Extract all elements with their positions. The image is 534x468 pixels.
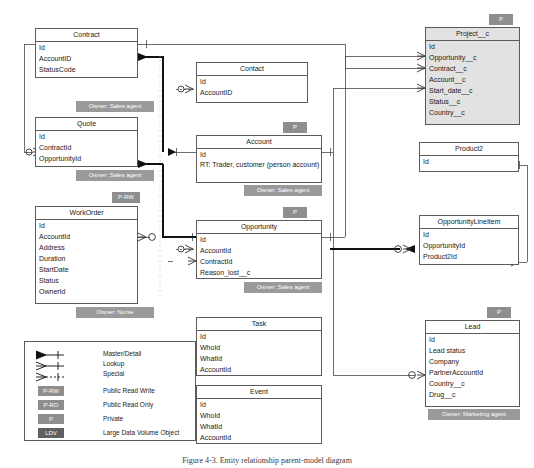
legend-badge-ldv: LDV (38, 428, 64, 438)
entity-title: Opportunity (197, 221, 321, 234)
entity-field: AccountId (197, 364, 321, 375)
entity-field: Status (36, 275, 137, 286)
legend-badge-p: P (38, 414, 64, 424)
entity-field: Status__c (426, 96, 519, 107)
owner-badge-quote: Owner: Sales agent (76, 170, 154, 181)
entity-title: Project__c (426, 28, 519, 41)
entity-field: Id (426, 334, 519, 345)
entity-field: Id (36, 42, 137, 53)
entity-field: Id (420, 156, 518, 167)
entity-field: PartnerAccountId (426, 367, 519, 378)
entity-contact[interactable]: Contact Id AccountID (196, 62, 308, 103)
entity-field: Opportunity__c (426, 52, 519, 63)
entity-fields: Id OpportunityId Product2Id (420, 229, 518, 262)
entity-title: Contract (36, 29, 137, 42)
entity-field: Id (197, 234, 321, 245)
entity-fields: Id Lead status Company PartnerAccountId … (426, 334, 519, 400)
entity-contract[interactable]: Contract Id AccountID StatusCode (35, 28, 138, 78)
entity-field: Address (36, 242, 137, 253)
sharing-badge-workorder: P-RW (112, 192, 140, 203)
entity-title: Contact (197, 63, 307, 76)
entity-field: ContractId (197, 256, 321, 267)
owner-badge-workorder: Owner: Nurse (76, 307, 154, 318)
entity-field: WhatId (197, 421, 321, 432)
entity-title: Task (197, 318, 321, 331)
entity-field: AccountID (197, 87, 307, 98)
entity-title: Account (197, 136, 321, 149)
entity-workorder[interactable]: WorkOrder Id AccountId Address Duration … (35, 206, 138, 304)
entity-project[interactable]: Project__c Id Opportunity__c Contract__c… (425, 27, 520, 125)
er-diagram-canvas: Contract Id AccountID StatusCode Owner: … (0, 0, 534, 468)
entity-fields: Id (420, 156, 518, 167)
figure-caption: Figure 4-3. Entity relationship parent-m… (0, 456, 534, 465)
entity-field: WhatId (197, 353, 321, 364)
entity-title: OpportunityLineItem (420, 216, 518, 229)
legend-box: Master/Detail Lookup Special P-RW Public… (24, 341, 196, 441)
entity-field: Id (197, 149, 321, 160)
entity-field: Id (36, 220, 137, 231)
entity-field: Contract__c (426, 63, 519, 74)
entity-title: Event (197, 386, 321, 399)
legend-label-special: Special (103, 370, 124, 378)
entity-title: WorkOrder (36, 207, 137, 220)
owner-badge-lead: Owner: Marketing agent (428, 409, 520, 420)
legend-badge-p-ro: P-RO (38, 400, 64, 410)
entity-field: StartDate (36, 264, 137, 275)
entity-quote[interactable]: Quote Id ContractId OpportunityId (35, 117, 138, 167)
sharing-badge-project: P (489, 14, 513, 25)
entity-account[interactable]: Account Id RT: Trader, customer (person … (196, 135, 322, 183)
entity-field: RT: Trader, customer (person account) (197, 160, 321, 170)
legend-label-master-detail: Master/Detail (103, 350, 141, 358)
entity-field: ContractId (36, 142, 137, 153)
entity-title: Product2 (420, 143, 518, 156)
entity-fields: Id AccountID StatusCode (36, 42, 137, 75)
legend-label-p: Private (103, 415, 123, 423)
entity-event[interactable]: Event Id WhoId WhatId AccountId (196, 385, 322, 444)
entity-field: Id (36, 131, 137, 142)
entity-field: Drug__c (426, 389, 519, 400)
entity-field: Id (426, 41, 519, 52)
sharing-badge-opportunity: P (283, 207, 307, 218)
entity-fields: Id RT: Trader, customer (person account) (197, 149, 321, 170)
entity-fields: Id AccountId ContractId Reason_lost__c (197, 234, 321, 278)
entity-field: OpportunityId (420, 240, 518, 251)
legend-label-lookup: Lookup (103, 360, 124, 368)
entity-fields: Id Opportunity__c Contract__c Account__c… (426, 41, 519, 118)
entity-fields: Id AccountID (197, 76, 307, 98)
entity-field: Id (420, 229, 518, 240)
entity-lead[interactable]: Lead Id Lead status Company PartnerAccou… (425, 320, 520, 407)
entity-field: Id (197, 331, 321, 342)
legend-badge-p-rw: P-RW (38, 386, 64, 396)
entity-field: Account__c (426, 74, 519, 85)
entity-field: WhoId (197, 410, 321, 421)
entity-product2[interactable]: Product2 Id (419, 142, 519, 172)
entity-field: Duration (36, 253, 137, 264)
entity-field: WhoId (197, 342, 321, 353)
entity-field: AccountId (197, 432, 321, 443)
entity-field: StatusCode (36, 64, 137, 75)
entity-field: Lead status (426, 345, 519, 356)
entity-title: Quote (36, 118, 137, 131)
entity-task[interactable]: Task Id WhoId WhatId AccountId (196, 317, 322, 376)
entity-fields: Id AccountId Address Duration StartDate … (36, 220, 137, 297)
entity-fields: Id ContractId OpportunityId (36, 131, 137, 164)
sharing-badge-lead: P (487, 307, 511, 318)
entity-field: Id (197, 399, 321, 410)
legend-relationship-symbols (34, 350, 98, 384)
entity-field: OwnerId (36, 286, 137, 297)
entity-field: Reason_lost__c (197, 267, 321, 278)
entity-field: Company (426, 356, 519, 367)
entity-field: AccountId (36, 231, 137, 242)
entity-field: Start_date__c (426, 85, 519, 96)
entity-opportunitylineitem[interactable]: OpportunityLineItem Id OpportunityId Pro… (419, 215, 519, 265)
legend-label-p-rw: Public Read Write (103, 387, 155, 395)
entity-opportunity[interactable]: Opportunity Id AccountId ContractId Reas… (196, 220, 322, 279)
entity-field: Product2Id (420, 251, 518, 262)
entity-field: AccountId (197, 245, 321, 256)
owner-badge-account: Owner: Sales agent (244, 185, 322, 196)
entity-fields: Id WhoId WhatId AccountId (197, 331, 321, 375)
legend-label-ldv: Large Data Volume Object (103, 428, 189, 437)
owner-badge-contract: Owner: Sales agent (76, 101, 154, 112)
owner-badge-opportunity: Owner: Sales agent (244, 282, 322, 293)
legend-label-p-ro: Public Read Only (103, 401, 153, 409)
